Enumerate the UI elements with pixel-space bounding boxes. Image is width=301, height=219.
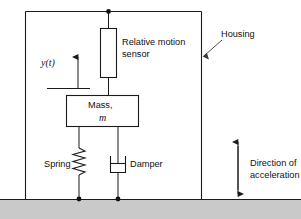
mass-label: Mass, — [88, 100, 113, 110]
diagram-canvas: Relative motion sensor Housing Mass, m S… — [0, 0, 301, 219]
acceleration-label-line2: acceleration — [250, 170, 300, 180]
mass-symbol-label: m — [99, 112, 106, 123]
relative-motion-sensor-box — [101, 29, 117, 78]
spring-coil — [73, 148, 85, 175]
spring-label: Spring — [44, 159, 71, 169]
housing-leader-line — [205, 40, 222, 55]
sensor-label-line1: Relative motion — [122, 37, 185, 47]
damper-label: Damper — [130, 159, 163, 169]
ground-band — [0, 200, 301, 219]
accelerometer-figure: Relative motion sensor Housing Mass, m S… — [0, 0, 301, 219]
displacement-label: y(t) — [40, 57, 56, 69]
acceleration-label-line1: Direction of — [250, 158, 297, 168]
damper-ground-dot — [116, 197, 121, 202]
spring-ground-dot — [77, 197, 82, 202]
housing-label: Housing — [221, 29, 255, 39]
sensor-label-line2: sensor — [122, 49, 150, 59]
